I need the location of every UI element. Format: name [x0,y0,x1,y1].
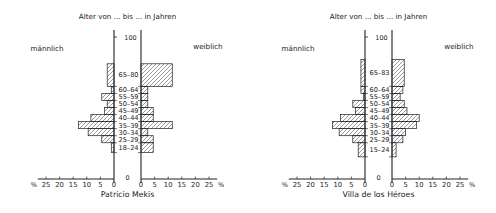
bar-male-30–34 [88,129,114,136]
bar-female-45–49 [141,108,153,115]
age-group-label: 30–34 [118,129,138,137]
bar-male-30–34 [339,129,365,136]
bar-female-50–54 [141,100,148,107]
bar-female-30–34 [141,129,148,136]
population-pyramids-figure: Alter von ... bis ... in Jahrenmännlichw… [0,0,496,213]
x-tick-label: 25 [293,181,302,189]
x-tick-label: 10 [415,181,424,189]
bar-male-50–54 [107,100,114,107]
bar-male-45–49 [355,108,365,115]
age-group-label: 25–29 [369,136,389,144]
bar-male-35–39 [79,122,114,129]
x-tick-label: 10 [82,181,91,189]
female-label: weiblich [444,42,473,51]
x-unit-left: % [282,181,288,189]
x-tick-label: 0 [390,181,394,189]
bar-female-60–64 [392,86,403,93]
bar-female-45–49 [392,108,407,115]
bar-female-18–24 [141,143,153,153]
x-unit-right: % [469,181,475,189]
age-group-label: 60–64 [118,86,138,94]
bar-female-55–59 [141,93,148,100]
x-tick-label: 15 [428,181,437,189]
x-tick-label: 25 [456,181,465,189]
age-group-label: 45–49 [118,107,138,115]
y-tick-100: 100 [375,34,387,42]
bar-male-25–29 [102,136,114,143]
age-group-label: 65–83 [369,69,389,77]
chart-header: Alter von ... bis ... in Jahren [79,12,176,21]
bar-female-15–24 [392,143,396,157]
bar-male-65–80 [107,64,114,87]
age-group-label: 55–59 [369,93,389,101]
bar-male-60–64 [361,86,365,93]
age-group-label: 50–54 [118,100,138,108]
age-group-label: 35–39 [118,122,138,130]
x-tick-label: 5 [152,181,156,189]
age-group-label: 55–59 [118,93,138,101]
age-group-label: 40–44 [118,114,138,122]
age-group-label: 30–34 [369,129,389,137]
x-tick-label: 15 [177,181,186,189]
bar-female-65–83 [392,60,404,87]
bar-male-18–24 [111,143,114,153]
bar-male-55–59 [364,93,365,100]
bar-male-55–59 [102,93,114,100]
x-unit-left: % [31,181,37,189]
y-tick-0: 0 [125,174,129,182]
age-group-label: 35–39 [369,122,389,130]
age-group-label: 40–44 [369,114,389,122]
age-group-label: 65–80 [118,71,138,79]
bar-male-65–83 [361,60,365,87]
bar-male-40–44 [91,115,114,122]
x-tick-label: 20 [306,181,315,189]
x-tick-label: 15 [320,181,329,189]
bar-male-35–39 [332,122,365,129]
bar-male-50–54 [353,100,365,107]
x-tick-label: 10 [333,181,342,189]
x-tick-label: 25 [42,181,51,189]
x-tick-label: 25 [205,181,214,189]
x-tick-label: 5 [403,181,407,189]
x-tick-label: 15 [69,181,78,189]
chart-title: Patricio Mekis [101,190,155,199]
bar-female-50–54 [392,100,404,107]
bar-male-40–44 [341,115,365,122]
bar-female-40–44 [141,115,153,122]
pyramid-charts: Alter von ... bis ... in Jahrenmännlichw… [0,0,496,213]
y-tick-100: 100 [124,34,136,42]
bar-male-60–64 [111,86,114,93]
female-label: weiblich [193,42,222,51]
bar-male-45–49 [104,108,114,115]
male-label: männlich [281,44,314,53]
x-tick-label: 5 [349,181,353,189]
age-group-label: 60–64 [369,86,389,94]
x-tick-label: 10 [164,181,173,189]
bar-male-15–24 [358,143,365,157]
bar-female-30–34 [392,129,406,136]
x-tick-label: 0 [112,181,116,189]
bar-female-25–29 [392,136,403,143]
pyramid-1: Alter von ... bis ... in Jahrenmännlichw… [30,12,224,199]
x-tick-label: 0 [139,181,143,189]
bar-female-55–59 [392,93,400,100]
age-group-label: 45–49 [369,107,389,115]
bar-female-35–39 [392,122,416,129]
x-unit-right: % [218,181,224,189]
bar-male-25–29 [353,136,365,143]
y-tick-0: 0 [376,174,380,182]
age-group-label: 25–29 [118,136,138,144]
x-tick-label: 20 [442,181,451,189]
age-group-label: 15–24 [369,146,389,154]
pyramid-2: Alter von ... bis ... in Jahrenmännlichw… [281,12,475,199]
age-group-label: 50–54 [369,100,389,108]
bar-female-25–29 [141,136,153,143]
x-tick-label: 20 [191,181,200,189]
bar-female-40–44 [392,115,419,122]
chart-header: Alter von ... bis ... in Jahren [330,12,427,21]
x-tick-label: 5 [98,181,102,189]
chart-title: Villa de los Héroes [343,190,415,199]
bar-female-60–64 [141,86,148,93]
bar-female-35–39 [141,122,172,129]
x-tick-label: 20 [55,181,64,189]
